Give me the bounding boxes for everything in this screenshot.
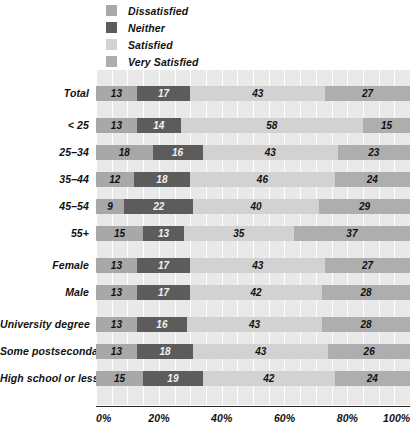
bar-segment[interactable]: 22 [124,199,193,214]
bar-segment[interactable]: 18 [134,172,191,187]
bar-segment-value: 28 [322,317,410,332]
bar-segment-value: 42 [190,285,322,300]
bar-segment[interactable]: 15 [96,371,143,386]
bar-segment-value: 43 [203,145,338,160]
bar-segment-value: 18 [96,145,153,160]
bar-segment[interactable]: 18 [96,145,153,160]
legend-item[interactable]: Very Satisfied [106,53,326,70]
x-axis-tick: 0% [96,412,111,424]
bar-segment[interactable]: 13 [143,226,184,241]
bar-segment[interactable]: 13 [96,344,137,359]
bar-segment-value: 40 [193,199,319,214]
bar-segment[interactable]: 13 [96,86,137,101]
legend-item[interactable]: Dissatisfied [106,2,326,19]
bar-segment-value: 43 [193,344,328,359]
bar-segment[interactable]: 17 [137,285,190,300]
bar-segment-value: 27 [325,258,410,273]
bar-segment[interactable]: 46 [190,172,334,187]
bar-segment-value: 16 [153,145,203,160]
x-axis-tick: 80% [337,412,358,424]
bar-segment[interactable]: 26 [328,344,410,359]
bar-segment[interactable]: 58 [181,118,363,133]
bar-segment[interactable]: 19 [143,371,203,386]
stacked-bar: 15133537 [96,226,410,241]
bar-segment[interactable]: 24 [335,172,410,187]
stacked-bar: 13164328 [96,317,410,332]
bar-segment[interactable]: 17 [137,86,190,101]
bar-segment-value: 18 [134,172,191,187]
chart-row: 35–4412184624 [0,172,419,187]
bar-segment[interactable]: 28 [322,317,410,332]
bar-segment[interactable]: 13 [96,118,137,133]
x-axis-tick: 100% [383,412,410,424]
bar-segment[interactable]: 18 [137,344,194,359]
bar-segment[interactable]: 16 [153,145,203,160]
bar-segment[interactable]: 28 [322,285,410,300]
bar-segment-value: 43 [187,317,322,332]
stacked-bar: 12184624 [96,172,410,187]
bar-segment-value: 13 [96,86,137,101]
bar-segment[interactable]: 27 [325,86,410,101]
bar-segment[interactable]: 16 [137,317,187,332]
bar-segment-value: 43 [190,86,325,101]
stacked-bar: 18164323 [96,145,410,160]
bar-segment[interactable]: 13 [96,258,137,273]
bar-segment[interactable]: 43 [203,145,338,160]
bar-segment-value: 28 [322,285,410,300]
bar-segment[interactable]: 13 [96,285,137,300]
bar-segment-value: 26 [328,344,410,359]
bar-segment[interactable]: 37 [294,226,410,241]
bar-segment[interactable]: 42 [203,371,335,386]
stacked-bar: 15194224 [96,371,410,386]
bar-segment-value: 15 [363,118,410,133]
bar-segment[interactable]: 43 [187,317,322,332]
bar-segment[interactable]: 23 [338,145,410,160]
bar-segment-value: 24 [335,172,410,187]
legend-swatch-icon [106,56,117,67]
legend-item-label: Very Satisfied [128,56,198,68]
bar-segment[interactable]: 43 [193,344,328,359]
legend-item-label: Neither [128,22,165,34]
bar-segment-value: 9 [96,199,124,214]
bar-segment-value: 24 [335,371,410,386]
row-label: Some postsecondary [0,344,89,359]
bar-segment[interactable]: 40 [193,199,319,214]
legend-swatch-icon [106,39,117,50]
x-axis-tick: 60% [274,412,295,424]
x-axis-tick-labels: 0%20%40%60%80%100% [0,412,419,428]
bar-segment-value: 13 [96,285,137,300]
bar-segment[interactable]: 15 [96,226,143,241]
x-axis-line [96,406,410,407]
x-axis-tick: 20% [148,412,169,424]
row-label: 35–44 [0,172,89,187]
legend-item[interactable]: Neither [106,19,326,36]
bar-segment[interactable]: 15 [363,118,410,133]
row-label: 25–34 [0,145,89,160]
bar-segment[interactable]: 14 [137,118,181,133]
bar-segment[interactable]: 17 [137,258,190,273]
chart-row: 55+15133537 [0,226,419,241]
bar-segment[interactable]: 43 [190,86,325,101]
bar-segment[interactable]: 35 [184,226,294,241]
bar-segment[interactable]: 27 [325,258,410,273]
row-label: High school or less [0,371,89,386]
bar-segment-value: 19 [143,371,203,386]
bar-segment[interactable]: 9 [96,199,124,214]
chart-row: Some postsecondary13184326 [0,344,419,359]
bar-segment[interactable]: 13 [96,317,137,332]
stacked-bar: 13174327 [96,258,410,273]
legend-swatch-icon [106,5,117,16]
row-label: 45–54 [0,199,89,214]
stacked-bar: 13174327 [96,86,410,101]
bar-segment[interactable]: 24 [335,371,410,386]
bar-segment[interactable]: 29 [319,199,410,214]
chart-row: < 2513145815 [0,118,419,133]
legend-item[interactable]: Satisfied [106,36,326,53]
chart-row: University degree13164328 [0,317,419,332]
bar-segment[interactable]: 12 [96,172,134,187]
bar-segment-value: 23 [338,145,410,160]
bar-segment[interactable]: 42 [190,285,322,300]
bar-segment-value: 17 [137,285,190,300]
bar-segment-value: 27 [325,86,410,101]
bar-segment[interactable]: 43 [190,258,325,273]
